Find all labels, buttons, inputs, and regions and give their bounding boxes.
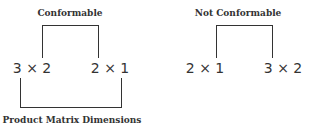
conformable-bracket-top xyxy=(42,25,99,26)
left-first-dimension: 3 × 2 xyxy=(13,60,51,76)
conformable-bracket-left xyxy=(42,25,43,58)
not-conformable-bracket-top xyxy=(216,25,273,26)
not-conformable-bracket-right xyxy=(272,25,273,58)
not-conformable-label: Not Conformable xyxy=(195,8,282,18)
product-bracket-bottom xyxy=(20,107,122,108)
product-bracket-left xyxy=(20,78,21,108)
right-first-dimension: 2 × 1 xyxy=(186,60,224,76)
not-conformable-bracket-left xyxy=(216,25,217,58)
conformable-label: Conformable xyxy=(37,8,102,18)
right-second-dimension: 3 × 2 xyxy=(264,60,302,76)
conformability-diagram: Conformable 3 × 2 2 × 1 Product Matrix D… xyxy=(0,0,310,131)
product-dimensions-label: Product Matrix Dimensions xyxy=(3,115,142,125)
left-second-dimension: 2 × 1 xyxy=(91,60,129,76)
product-bracket-right xyxy=(121,78,122,108)
conformable-bracket-right xyxy=(98,25,99,58)
